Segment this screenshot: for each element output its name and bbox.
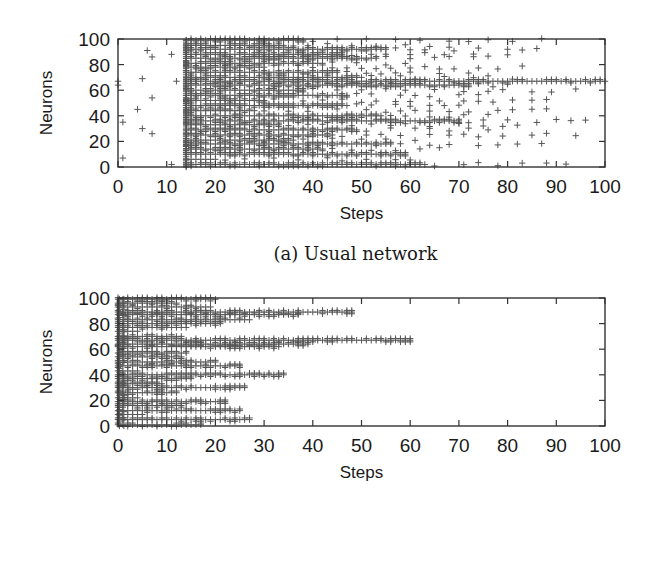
y-tick-label: 20 bbox=[89, 131, 110, 152]
y-tick-label: 80 bbox=[89, 314, 110, 335]
spike-markers bbox=[115, 35, 608, 170]
x-axis-label: Steps bbox=[340, 204, 383, 223]
x-axis-label: Steps bbox=[340, 463, 383, 482]
x-tick-label: 50 bbox=[351, 176, 372, 197]
y-tick-label: 0 bbox=[99, 157, 110, 178]
x-tick-label: 30 bbox=[254, 176, 275, 197]
y-axis-label: Neurons bbox=[37, 330, 56, 394]
x-tick-label: 70 bbox=[448, 435, 469, 456]
x-tick-label: 100 bbox=[589, 176, 621, 197]
x-tick-label: 90 bbox=[546, 435, 567, 456]
y-tick-label: 40 bbox=[89, 365, 110, 386]
x-tick-label: 10 bbox=[156, 435, 177, 456]
x-tick-label: 80 bbox=[497, 176, 518, 197]
x-tick-label: 20 bbox=[205, 176, 226, 197]
y-tick-label: 60 bbox=[89, 339, 110, 360]
y-tick-label: 60 bbox=[89, 80, 110, 101]
x-tick-label: 50 bbox=[351, 435, 372, 456]
x-tick-label: 70 bbox=[448, 176, 469, 197]
x-tick-label: 20 bbox=[205, 435, 226, 456]
x-tick-label: 60 bbox=[400, 435, 421, 456]
x-tick-label: 40 bbox=[302, 176, 323, 197]
y-tick-label: 100 bbox=[78, 29, 110, 50]
scatter-plot-simplified-network: 0102030405060708090100020406080100StepsN… bbox=[0, 259, 651, 484]
x-tick-label: 80 bbox=[497, 435, 518, 456]
x-tick-label: 100 bbox=[589, 435, 621, 456]
y-tick-label: 20 bbox=[89, 390, 110, 411]
x-tick-label: 30 bbox=[254, 435, 275, 456]
x-tick-label: 60 bbox=[400, 176, 421, 197]
y-tick-label: 40 bbox=[89, 106, 110, 127]
x-tick-label: 90 bbox=[546, 176, 567, 197]
x-tick-label: 0 bbox=[113, 435, 124, 456]
spike-markers bbox=[115, 294, 414, 429]
x-tick-label: 10 bbox=[156, 176, 177, 197]
y-axis-label: Neurons bbox=[37, 71, 56, 135]
x-tick-label: 0 bbox=[113, 176, 124, 197]
y-tick-label: 80 bbox=[89, 55, 110, 76]
y-tick-label: 100 bbox=[78, 288, 110, 309]
x-tick-label: 40 bbox=[302, 435, 323, 456]
y-tick-label: 0 bbox=[99, 416, 110, 437]
scatter-plot-usual-network: 0102030405060708090100020406080100StepsN… bbox=[0, 0, 651, 240]
